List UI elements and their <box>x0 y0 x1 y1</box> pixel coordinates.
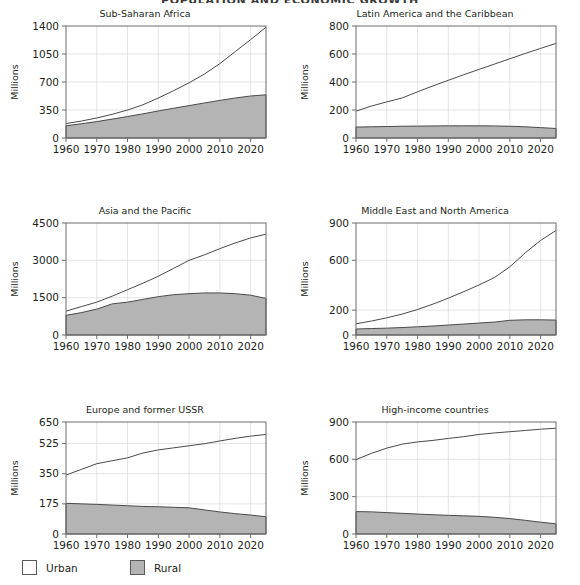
y-axis-label: Millions <box>9 64 20 100</box>
x-tick-label: 1970 <box>83 539 110 551</box>
x-tick-label: 2010 <box>496 143 523 155</box>
x-tick-label: 2010 <box>206 539 233 551</box>
x-tick-label: 1990 <box>145 539 172 551</box>
x-tick-label: 1960 <box>53 340 80 352</box>
y-tick-label: 0 <box>342 329 349 341</box>
y-tick-label: 200 <box>329 104 349 116</box>
x-tick-label: 1970 <box>83 143 110 155</box>
legend-item-urban[interactable]: Urban <box>22 560 78 575</box>
y-tick-label: 1050 <box>32 48 59 60</box>
rural-area-series <box>356 126 556 138</box>
y-tick-label: 800 <box>329 20 349 32</box>
chart-svg: 0150030004500196019701980199020002010202… <box>0 215 290 365</box>
chart-grid: Sub-Saharan Africa0350700105014001960197… <box>0 8 580 556</box>
y-axis-label: Millions <box>299 460 310 496</box>
y-tick-label: 600 <box>329 254 349 266</box>
x-tick-label: 2020 <box>237 340 264 352</box>
y-tick-label: 400 <box>329 76 349 88</box>
y-tick-label: 200 <box>329 304 349 316</box>
x-tick-label: 1990 <box>435 539 462 551</box>
x-tick-label: 1990 <box>145 143 172 155</box>
x-tick-label: 1960 <box>343 143 370 155</box>
x-tick-label: 1980 <box>404 340 431 352</box>
y-tick-label: 900 <box>329 416 349 428</box>
x-tick-label: 2000 <box>466 143 493 155</box>
x-tick-label: 2000 <box>176 340 203 352</box>
running-head: POPULATION AND ECONOMIC GROWTH <box>0 0 580 3</box>
x-tick-label: 2010 <box>496 340 523 352</box>
y-axis-label: Millions <box>299 261 310 297</box>
x-tick-label: 1990 <box>435 340 462 352</box>
x-tick-label: 2020 <box>237 143 264 155</box>
x-tick-label: 2000 <box>176 539 203 551</box>
x-tick-label: 1980 <box>404 539 431 551</box>
x-tick-label: 1970 <box>373 539 400 551</box>
x-tick-label: 2010 <box>206 143 233 155</box>
x-tick-label: 2020 <box>527 539 554 551</box>
chart-svg: 0200400600800196019701980199020002010202… <box>290 18 580 168</box>
y-tick-label: 0 <box>52 132 59 144</box>
legend-label-rural: Rural <box>154 562 181 574</box>
legend-label-urban: Urban <box>46 562 78 574</box>
y-tick-label: 650 <box>39 416 59 428</box>
y-axis-label: Millions <box>9 261 20 297</box>
y-tick-label: 3000 <box>32 254 59 266</box>
chart-panel-0: Sub-Saharan Africa0350700105014001960197… <box>0 8 290 193</box>
chart-panel-2: Asia and the Pacific01500300045001960197… <box>0 205 290 390</box>
figure-legend: UrbanRural <box>0 556 580 585</box>
y-tick-label: 900 <box>329 217 349 229</box>
legend-swatch-urban <box>22 560 37 575</box>
x-tick-label: 2020 <box>527 143 554 155</box>
y-tick-label: 0 <box>342 132 349 144</box>
x-tick-label: 1960 <box>53 539 80 551</box>
x-tick-label: 1980 <box>404 143 431 155</box>
x-tick-label: 2020 <box>527 340 554 352</box>
y-axis-label: Millions <box>9 460 20 496</box>
y-tick-label: 1500 <box>32 291 59 303</box>
y-axis-label: Millions <box>299 64 310 100</box>
chart-svg: 0175350525650196019701980199020002010202… <box>0 414 290 564</box>
x-tick-label: 1960 <box>343 539 370 551</box>
legend-swatch-rural <box>130 560 145 575</box>
y-tick-label: 700 <box>39 76 59 88</box>
y-tick-label: 4500 <box>32 217 59 229</box>
x-tick-label: 2000 <box>466 539 493 551</box>
x-tick-label: 2000 <box>466 340 493 352</box>
x-tick-label: 2000 <box>176 143 203 155</box>
y-tick-label: 600 <box>329 453 349 465</box>
x-tick-label: 1980 <box>114 143 141 155</box>
chart-panel-3: Middle East and North America02006009001… <box>290 205 580 390</box>
legend-item-rural[interactable]: Rural <box>130 560 181 575</box>
chart-panel-1: Latin America and the Caribbean020040060… <box>290 8 580 193</box>
x-tick-label: 1970 <box>373 143 400 155</box>
x-tick-label: 2010 <box>496 539 523 551</box>
y-tick-label: 300 <box>329 490 349 502</box>
y-tick-label: 175 <box>39 497 59 509</box>
chart-svg: 0350700105014001960197019801990200020102… <box>0 18 290 168</box>
chart-svg: 02006009001960197019801990200020102020Mi… <box>290 215 580 365</box>
y-tick-label: 0 <box>52 329 59 341</box>
x-tick-label: 1960 <box>53 143 80 155</box>
x-tick-label: 1970 <box>83 340 110 352</box>
x-tick-label: 1980 <box>114 539 141 551</box>
y-tick-label: 0 <box>342 528 349 540</box>
x-tick-label: 1990 <box>145 340 172 352</box>
y-tick-label: 600 <box>329 48 349 60</box>
x-tick-label: 1990 <box>435 143 462 155</box>
y-tick-label: 350 <box>39 104 59 116</box>
x-tick-label: 1970 <box>373 340 400 352</box>
x-tick-label: 1980 <box>114 340 141 352</box>
x-tick-label: 2020 <box>237 539 264 551</box>
x-tick-label: 1960 <box>343 340 370 352</box>
y-tick-label: 525 <box>39 437 59 449</box>
chart-svg: 03006009001960197019801990200020102020Mi… <box>290 414 580 564</box>
x-tick-label: 2010 <box>206 340 233 352</box>
y-tick-label: 1400 <box>32 20 59 32</box>
y-tick-label: 0 <box>52 528 59 540</box>
y-tick-label: 350 <box>39 467 59 479</box>
